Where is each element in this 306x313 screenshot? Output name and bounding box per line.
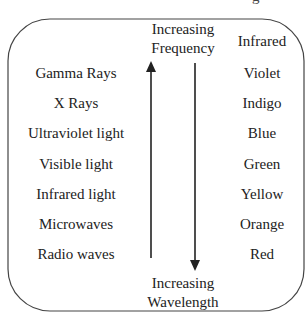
right-column-top-label: Infrared bbox=[224, 33, 300, 49]
color-item-red: Red bbox=[224, 246, 300, 262]
frequency-label: Increasing Frequency bbox=[140, 20, 226, 58]
frequency-arrow-icon bbox=[146, 61, 156, 258]
color-item-violet: Violet bbox=[224, 65, 300, 81]
wavelength-label-line2: Wavelength bbox=[140, 293, 226, 312]
color-item-orange: Orange bbox=[224, 216, 300, 232]
frequency-label-line2: Frequency bbox=[140, 39, 226, 58]
spectrum-item-gamma-rays: Gamma Rays bbox=[8, 65, 144, 81]
color-item-indigo: Indigo bbox=[224, 95, 300, 111]
spectrum-item-microwaves: Microwaves bbox=[8, 216, 144, 232]
clipped-caption-fragment: g bbox=[252, 0, 260, 5]
wavelength-label-line1: Increasing bbox=[140, 274, 226, 293]
color-item-yellow: Yellow bbox=[224, 186, 300, 202]
color-item-green: Green bbox=[224, 156, 300, 172]
frequency-label-line1: Increasing bbox=[140, 20, 226, 39]
spectrum-item-radio-waves: Radio waves bbox=[8, 246, 144, 262]
color-item-blue: Blue bbox=[224, 125, 300, 141]
spectrum-item-x-rays: X Rays bbox=[8, 95, 144, 111]
spectrum-item-infrared: Infrared light bbox=[8, 186, 144, 202]
spectrum-item-visible: Visible light bbox=[8, 156, 144, 172]
wavelength-arrow-icon bbox=[190, 63, 200, 271]
wavelength-label: Increasing Wavelength bbox=[140, 274, 226, 312]
spectrum-item-ultraviolet: Ultraviolet light bbox=[8, 125, 144, 141]
